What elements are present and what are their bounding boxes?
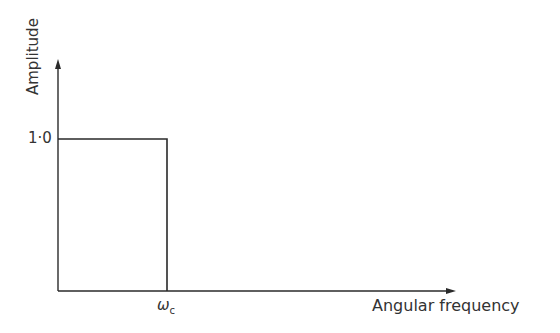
x-tick-cutoff: ωc bbox=[157, 296, 175, 316]
x-axis-label: Angular frequency bbox=[372, 296, 520, 315]
y-tick-1: 1·0 bbox=[28, 129, 52, 147]
chart-canvas bbox=[0, 0, 560, 333]
response-curve bbox=[58, 139, 167, 291]
cutoff-subscript: c bbox=[170, 305, 176, 316]
omega-symbol: ω bbox=[157, 296, 170, 314]
y-axis-arrow-icon bbox=[55, 59, 61, 69]
x-axis-arrow-icon bbox=[446, 288, 456, 294]
y-axis-label: Amplitude bbox=[24, 18, 42, 95]
